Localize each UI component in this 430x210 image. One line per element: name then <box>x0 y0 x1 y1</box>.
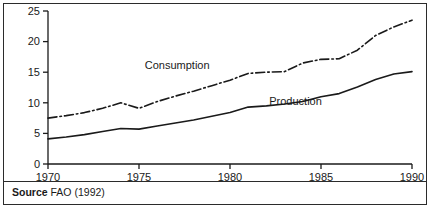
y-tick-label: 5 <box>34 127 40 139</box>
y-tick-label: 15 <box>28 66 40 78</box>
axes <box>43 11 412 169</box>
y-tick-label: 20 <box>28 35 40 47</box>
data-series <box>48 20 412 139</box>
annotation-production: Production <box>269 95 322 107</box>
source-label: Source <box>12 186 48 198</box>
annotation-consumption: Consumption <box>145 59 210 71</box>
source-divider <box>4 181 426 182</box>
y-tick-label: 10 <box>28 97 40 109</box>
tick-labels: 051015202519701975198019851990 <box>28 5 424 183</box>
source-value: FAO (1992) <box>51 186 105 198</box>
chart-figure: 051015202519701975198019851990 Consumpti… <box>0 0 430 210</box>
y-tick-label: 0 <box>34 158 40 170</box>
line-chart-svg: 051015202519701975198019851990 Consumpti… <box>0 0 430 210</box>
series-line-production <box>48 72 412 139</box>
y-tick-label: 25 <box>28 5 40 17</box>
source-note: Source FAO (1992) <box>12 186 105 198</box>
series-line-consumption <box>48 20 412 118</box>
plot-area: 051015202519701975198019851990 Consumpti… <box>0 0 430 210</box>
